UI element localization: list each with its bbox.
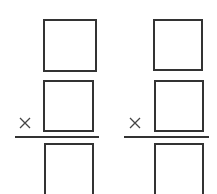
- product-box[interactable]: [154, 143, 204, 194]
- multiplicand-box[interactable]: [43, 19, 97, 72]
- multiply-operator-icon: [129, 117, 141, 129]
- multiplier-box[interactable]: [43, 80, 94, 132]
- multiplier-box[interactable]: [154, 80, 204, 132]
- answer-line: [15, 136, 99, 138]
- multiply-operator-icon: [19, 117, 31, 129]
- answer-line: [124, 136, 209, 138]
- product-box[interactable]: [44, 143, 94, 194]
- multiplicand-box[interactable]: [153, 19, 203, 71]
